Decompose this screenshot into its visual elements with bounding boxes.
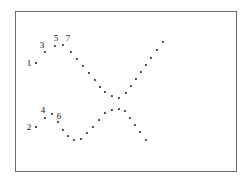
figure-root: 1234567 bbox=[0, 0, 250, 185]
plot-frame-border bbox=[15, 11, 237, 172]
